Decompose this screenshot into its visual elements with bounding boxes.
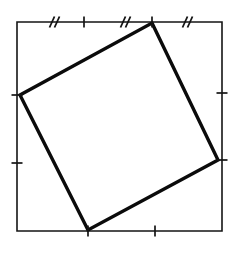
geometry-figure <box>0 0 239 253</box>
figure-canvas <box>0 0 239 253</box>
